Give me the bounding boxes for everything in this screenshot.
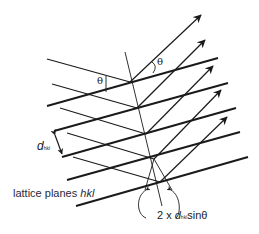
path-difference-arc-left: [139, 190, 147, 218]
reflected-rays: [130, 15, 227, 182]
lattice-plane-2: [54, 83, 228, 131]
theta-reflected-arc: [152, 62, 155, 73]
lattice-plane-3: [62, 108, 236, 157]
theta-incident-label: θ: [97, 76, 103, 86]
incident-rays: [47, 59, 160, 182]
theta-reflected-label: θ: [157, 57, 163, 67]
incident-ray-5: [73, 157, 160, 182]
d-hkl-arrow: [55, 135, 62, 154]
incident-ray-3: [60, 108, 146, 134]
d-hkl-label: dhkl: [37, 140, 50, 152]
incident-ray-4: [67, 133, 154, 159]
lattice-plane-4: [67, 132, 240, 180]
lattice-planes-label: lattice planes hkl: [13, 188, 94, 199]
path-difference-formula: 2 x dhklsinθ: [157, 210, 207, 221]
incident-ray-1: [47, 59, 130, 82]
lattice-plane-5: [76, 157, 248, 206]
incident-ray-2: [52, 84, 137, 108]
